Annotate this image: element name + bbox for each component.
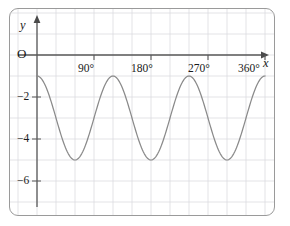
x-tick-label-180: 180° xyxy=(131,63,153,75)
x-axis-ticks xyxy=(94,55,265,60)
origin-label: O xyxy=(17,47,26,60)
graph-figure: O y x 90° 180° 270° 360° −2 −4 −6 xyxy=(0,0,290,226)
trig-graph-plot xyxy=(10,9,275,216)
y-tick-label-minus-6: −6 xyxy=(17,175,29,187)
x-tick-label-90: 90° xyxy=(78,63,94,75)
x-axis-label: x xyxy=(263,57,269,70)
y-tick-label-minus-4: −4 xyxy=(17,133,29,145)
y-axis xyxy=(34,15,41,207)
grid-horizontal xyxy=(10,13,275,202)
y-axis-label: y xyxy=(20,19,26,32)
y-tick-label-minus-2: −2 xyxy=(17,91,29,103)
graph-frame: O y x 90° 180° 270° 360° −2 −4 −6 xyxy=(9,8,275,216)
x-tick-label-270: 270° xyxy=(188,63,210,75)
x-tick-label-360: 360° xyxy=(238,63,260,75)
